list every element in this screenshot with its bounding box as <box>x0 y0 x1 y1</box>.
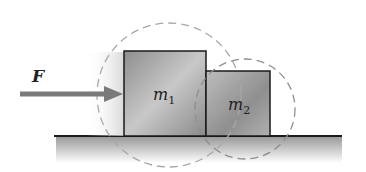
force-arrow <box>20 86 123 102</box>
ground <box>54 136 342 163</box>
two-block-diagram: F m1 m2 <box>0 0 366 172</box>
force-label: F <box>31 66 46 86</box>
